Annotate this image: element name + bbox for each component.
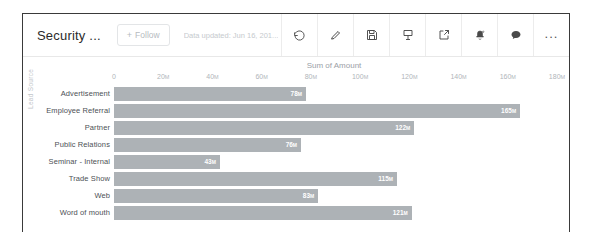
x-axis-tick: 100M (352, 73, 368, 80)
subscribe-button[interactable] (389, 14, 425, 56)
x-axis-tick: 60M (255, 73, 267, 80)
page-title: Security ... (37, 28, 101, 43)
chart-row: Advertisement78M (23, 85, 569, 102)
x-axis-tick: 160M (500, 73, 516, 80)
bar[interactable]: 115M (114, 172, 397, 186)
x-axis-tick: 180M (549, 73, 565, 80)
bar[interactable]: 43M (114, 155, 220, 169)
share-export-icon (438, 29, 450, 41)
chart-row: Seminar - Internal43M (23, 153, 569, 170)
bar-value-label: 76M (286, 141, 297, 148)
x-axis-tick: 120M (401, 73, 417, 80)
more-options-icon: ... (545, 27, 559, 40)
refresh-icon (293, 29, 306, 42)
chat-bubble-icon (510, 29, 522, 41)
category-label: Public Relations (23, 140, 110, 149)
follow-button[interactable]: + Follow (117, 24, 170, 46)
notifications-button[interactable] (461, 14, 497, 56)
chart-title: Sum of Amount (114, 61, 554, 70)
chart-body: Sum of Amount Lead Source 020M40M60M80M1… (23, 57, 569, 232)
bar-value-label: 115M (378, 175, 393, 182)
bar[interactable]: 121M (114, 206, 412, 220)
plus-icon: + (127, 31, 132, 40)
edit-button[interactable] (317, 14, 353, 56)
more-options-button[interactable]: ... (533, 14, 569, 56)
chat-button[interactable] (497, 14, 533, 56)
x-axis-tick: 40M (206, 73, 218, 80)
category-label: Word of mouth (23, 208, 110, 217)
edit-pencil-icon (330, 29, 342, 41)
x-axis-tick: 140M (450, 73, 466, 80)
chart-row: Employee Referral165M (23, 102, 569, 119)
chart-row: Web83M (23, 187, 569, 204)
toolbar: ... (281, 14, 569, 56)
category-label: Partner (23, 123, 110, 132)
refresh-button[interactable] (281, 14, 317, 56)
plot-area: Advertisement78MEmployee Referral165MPar… (23, 85, 569, 232)
category-label: Web (23, 191, 110, 200)
chart-row: Public Relations76M (23, 136, 569, 153)
bar-value-label: 122M (395, 124, 410, 131)
bar-value-label: 165M (501, 107, 516, 114)
share-button[interactable] (425, 14, 461, 56)
x-axis-tick: 20M (157, 73, 169, 80)
notification-bell-icon (474, 29, 486, 41)
bar[interactable]: 122M (114, 121, 414, 135)
data-updated-text: Data updated: Jun 16, 201... (184, 31, 279, 40)
chart-row: Word of mouth121M (23, 204, 569, 221)
chart-row: Trade Show115M (23, 170, 569, 187)
bar-value-label: 78M (291, 90, 302, 97)
x-axis-tick: 80M (305, 73, 317, 80)
follow-button-label: Follow (135, 30, 160, 40)
screen: Security ... + Follow Data updated: Jun … (0, 0, 592, 249)
x-axis: 020M40M60M80M100M120M140M160M180M (23, 73, 569, 85)
bar-value-label: 121M (393, 209, 408, 216)
bar[interactable]: 165M (114, 104, 520, 118)
subscribe-icon (402, 29, 414, 41)
category-label: Employee Referral (23, 106, 110, 115)
category-label: Seminar - Internal (23, 157, 110, 166)
bar-value-label: 83M (303, 192, 314, 199)
dashboard-card: Security ... + Follow Data updated: Jun … (22, 13, 570, 232)
chart-row: Partner122M (23, 119, 569, 136)
category-label: Advertisement (23, 89, 110, 98)
bar[interactable]: 78M (114, 87, 306, 101)
category-label: Trade Show (23, 174, 110, 183)
bar[interactable]: 76M (114, 138, 301, 152)
x-axis-tick: 0 (112, 73, 116, 80)
card-header: Security ... + Follow Data updated: Jun … (23, 14, 569, 57)
save-button[interactable] (353, 14, 389, 56)
bar[interactable]: 83M (114, 189, 318, 203)
save-floppy-icon (366, 29, 378, 41)
bar-value-label: 43M (204, 158, 215, 165)
